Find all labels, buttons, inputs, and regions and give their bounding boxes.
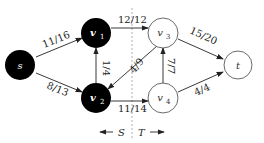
node-t: t xyxy=(224,51,252,79)
svg-text:s: s xyxy=(17,60,22,71)
flow-network-diagram: 11/16 8/13 1/4 12/12 4/9 11/14 7/7 15/20… xyxy=(0,0,264,143)
edge-label-v3-t: 15/20 xyxy=(188,25,219,47)
svg-text:v: v xyxy=(157,27,163,38)
cut-label-t: T xyxy=(138,127,146,138)
edge-label-v1-v3: 12/12 xyxy=(118,14,147,25)
node-v4: v 4 xyxy=(148,83,178,113)
node-v3: v 3 xyxy=(148,18,178,48)
node-v2: v 2 xyxy=(81,83,111,113)
diagram-canvas: 11/16 8/13 1/4 12/12 4/9 11/14 7/7 15/20… xyxy=(0,0,264,143)
edge-label-v2-v4: 11/14 xyxy=(118,103,147,114)
svg-text:v: v xyxy=(90,27,96,38)
svg-text:v: v xyxy=(157,92,163,103)
node-s: s xyxy=(5,50,35,80)
edge-label-v4-t: 4/4 xyxy=(192,81,211,98)
edge-label-s-v1: 11/16 xyxy=(41,29,72,50)
edge-label-v2-v1: 1/4 xyxy=(101,60,112,76)
svg-text:3: 3 xyxy=(166,33,170,41)
edge-label-s-v2: 8/13 xyxy=(45,80,70,99)
svg-text:v: v xyxy=(90,92,96,103)
cut-label-s: S xyxy=(118,127,125,138)
svg-text:1: 1 xyxy=(100,33,104,41)
svg-text:2: 2 xyxy=(100,98,104,106)
svg-text:4: 4 xyxy=(166,98,171,106)
node-v1: v 1 xyxy=(81,18,111,48)
edge-label-v4-v3: 7/7 xyxy=(166,58,177,74)
